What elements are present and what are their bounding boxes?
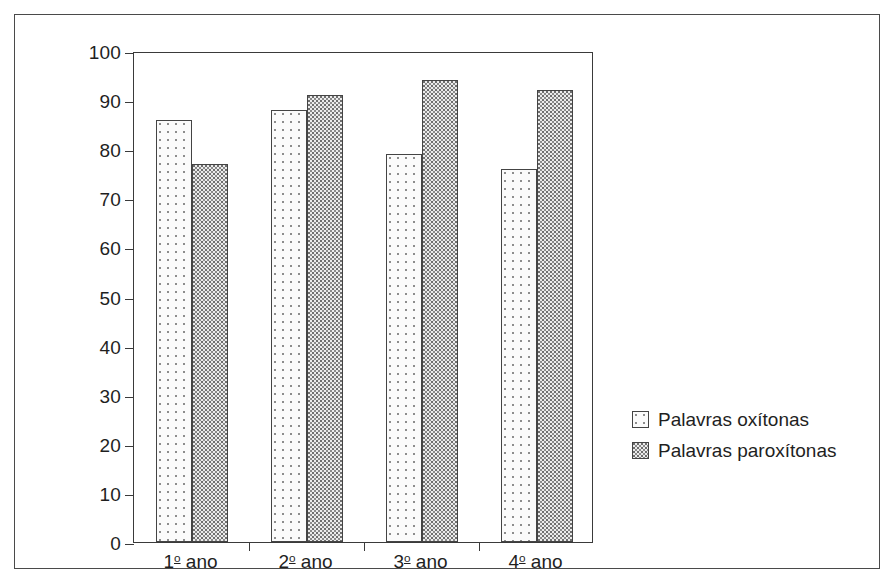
y-axis-tick-label: 70 bbox=[99, 189, 121, 211]
x-axis-category-label: 4o ano bbox=[508, 551, 562, 573]
y-axis-tick-label: 90 bbox=[99, 91, 121, 113]
ordinal-indicator: o bbox=[174, 551, 181, 564]
bar bbox=[156, 120, 192, 542]
y-axis-tick-label: 10 bbox=[99, 484, 121, 506]
bar bbox=[501, 169, 537, 542]
legend-label: Palavras oxítonas bbox=[658, 409, 809, 431]
y-axis-tick bbox=[125, 151, 134, 152]
y-axis-tick bbox=[125, 446, 134, 447]
y-axis-tick bbox=[125, 299, 134, 300]
ordinal-indicator: o bbox=[289, 551, 296, 564]
bar bbox=[386, 154, 422, 542]
legend-label: Palavras paroxítonas bbox=[658, 440, 837, 462]
x-axis-category-label: 2o ano bbox=[278, 551, 332, 573]
legend-item[interactable]: Palavras oxítonas bbox=[632, 404, 837, 435]
legend-item[interactable]: Palavras paroxítonas bbox=[632, 435, 837, 466]
bar bbox=[271, 110, 307, 542]
ordinal-indicator: o bbox=[519, 551, 526, 564]
y-axis-tick-label: 80 bbox=[99, 140, 121, 162]
y-axis-tick bbox=[125, 348, 134, 349]
y-axis-tick-label: 60 bbox=[99, 238, 121, 260]
y-axis-tick-label: 40 bbox=[99, 337, 121, 359]
y-axis-tick bbox=[125, 397, 134, 398]
x-axis-category-label: 1o ano bbox=[163, 551, 217, 573]
ordinal-indicator: o bbox=[404, 551, 411, 564]
legend-swatch-icon bbox=[632, 442, 649, 459]
y-axis-tick-label: 100 bbox=[89, 42, 121, 64]
chart-legend: Palavras oxítonasPalavras paroxítonas bbox=[632, 404, 837, 466]
x-axis-category-label: 3o ano bbox=[393, 551, 447, 573]
x-axis-tick bbox=[249, 542, 250, 551]
legend-swatch-icon bbox=[632, 411, 649, 428]
y-axis-tick bbox=[125, 249, 134, 250]
bar bbox=[537, 90, 573, 542]
y-axis-tick-label: 20 bbox=[99, 435, 121, 457]
plot-area: 0102030405060708090100 bbox=[133, 52, 593, 543]
y-axis-tick bbox=[125, 200, 134, 201]
bar bbox=[192, 164, 228, 542]
x-axis-tick bbox=[479, 542, 480, 551]
y-axis-tick-label: 50 bbox=[99, 288, 121, 310]
bar bbox=[422, 80, 458, 542]
y-axis-tick bbox=[125, 102, 134, 103]
y-axis-tick-label: 0 bbox=[110, 533, 121, 555]
bar bbox=[307, 95, 343, 542]
y-axis-tick-label: 30 bbox=[99, 386, 121, 408]
y-axis-tick bbox=[125, 53, 134, 54]
y-axis-tick bbox=[125, 495, 134, 496]
figure-frame: 0102030405060708090100 1o ano2o ano3o an… bbox=[14, 14, 880, 569]
x-axis-tick bbox=[364, 542, 365, 551]
y-axis-tick bbox=[125, 544, 134, 545]
